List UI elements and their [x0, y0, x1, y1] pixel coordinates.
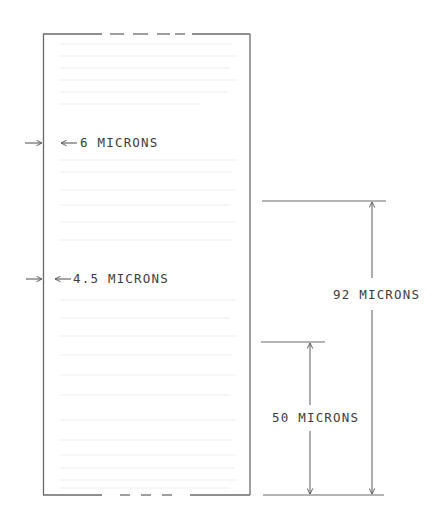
- callout-4-5-microns: 4.5 MICRONS: [26, 271, 169, 286]
- callout-4-5-label: 4.5 MICRONS: [73, 271, 169, 286]
- callout-6-label: 6 MICRONS: [80, 135, 159, 150]
- dimension-50-label: 50 MICRONS: [272, 410, 359, 425]
- dimension-92-microns: 92 MICRONS: [262, 201, 420, 494]
- specimen-ghost-texture: [60, 44, 236, 488]
- callout-6-microns: 6 MICRONS: [25, 135, 159, 150]
- dimension-50-microns: 50 MICRONS: [261, 342, 359, 494]
- micron-dimension-diagram: 6 MICRONS 4.5 MICRONS 92 MICRONS 50 MICR…: [0, 0, 443, 522]
- specimen-outline: [43, 34, 250, 495]
- dimension-92-label: 92 MICRONS: [333, 287, 420, 302]
